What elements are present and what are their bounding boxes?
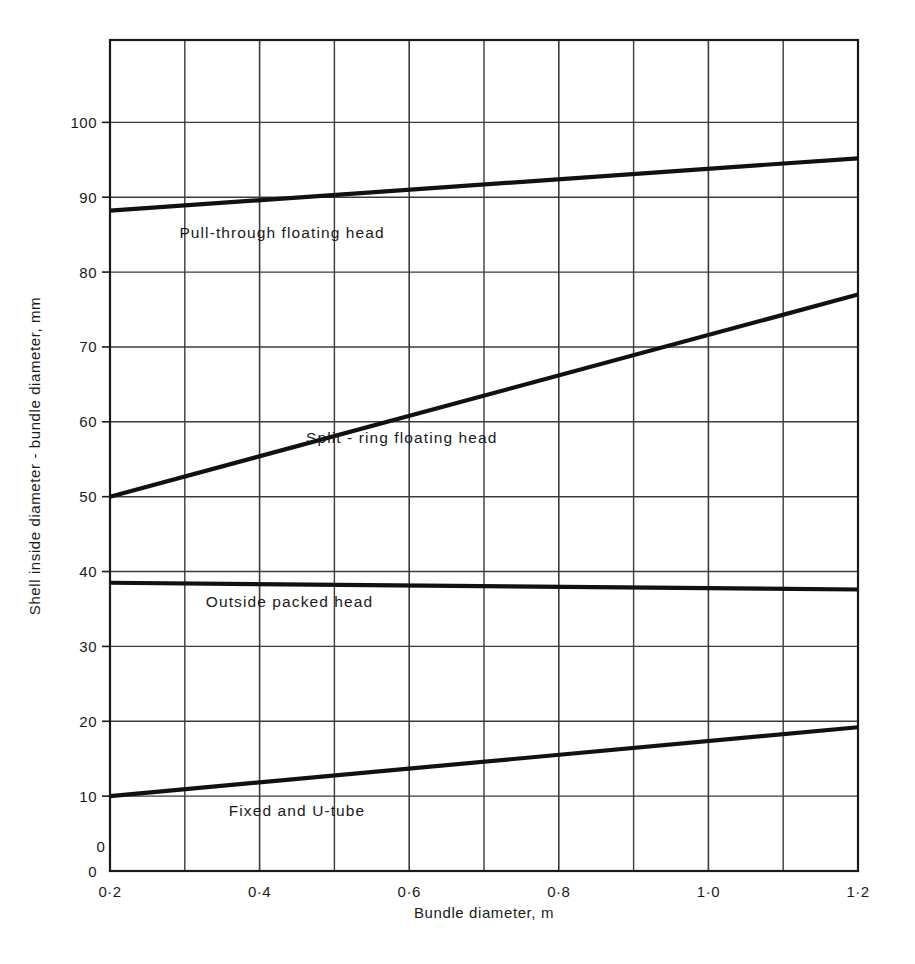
series-label-0: Pull-through floating head [179,224,384,241]
y-tick-label-5: 50 [79,488,97,505]
x-tick-label-3: 0·8 [547,883,570,900]
y-tick-label-0: 0 [88,863,97,880]
y-tick-label-10: 100 [70,114,97,131]
y-tick-label-1: 10 [79,788,97,805]
chart-figure: Pull-through floating headSplit - ring f… [0,0,915,964]
series-label-1: Split - ring floating head [306,429,497,446]
shell-clearance-chart: Pull-through floating headSplit - ring f… [0,0,915,964]
y-tick-label-2: 20 [79,713,97,730]
x-tick-label-1: 0·4 [248,883,271,900]
x-tick-label-4: 1·0 [697,883,720,900]
origin-zero-label: 0 [97,838,106,855]
y-axis-title: Shell inside diameter - bundle diameter,… [26,297,43,615]
x-tick-label-2: 0·6 [398,883,421,900]
x-tick-label-5: 1·2 [846,883,869,900]
y-tick-label-7: 70 [79,338,97,355]
y-tick-label-9: 90 [79,189,97,206]
y-tick-label-4: 40 [79,563,97,580]
y-tick-label-8: 80 [79,264,97,281]
chart-background [0,0,915,964]
series-label-2: Outside packed head [206,593,373,610]
y-tick-label-6: 60 [79,413,97,430]
x-axis-title: Bundle diameter, m [414,904,554,921]
x-tick-label-0: 0·2 [98,883,121,900]
y-tick-label-3: 30 [79,638,97,655]
series-label-3: Fixed and U-tube [229,802,366,819]
